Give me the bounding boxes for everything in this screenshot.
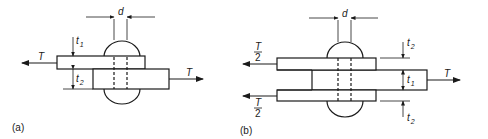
panel-a-lap-joint	[22, 17, 203, 104]
top-cover-plate	[277, 58, 376, 70]
label-load-left-a: T	[38, 51, 45, 62]
label-load-left-bottom-den: 2	[255, 108, 261, 119]
rivet-head-top	[104, 41, 140, 57]
caption-b: (b)	[240, 125, 252, 136]
label-load-right-a: T	[186, 67, 193, 78]
rivet-head-bottom	[327, 101, 363, 117]
bottom-plate	[93, 69, 169, 89]
rivet-head-top	[327, 42, 363, 58]
riveted-joint-diagram: d t1 t2 T T (a)	[0, 0, 488, 139]
label-load-left-top-den: 2	[255, 52, 261, 63]
label-t1-a: t1	[76, 35, 84, 48]
label-load-left-bottom-num: T	[255, 97, 262, 108]
top-plate	[57, 56, 145, 69]
label-t2-bottom-b: t2	[407, 112, 415, 125]
label-d-b: d	[342, 8, 348, 19]
label-t2-top-b: t2	[407, 37, 415, 50]
label-t2-a: t2	[76, 73, 84, 86]
panel-b-butt-joint	[243, 18, 460, 117]
label-load-right-b: T	[444, 68, 451, 79]
bottom-cover-plate	[277, 90, 376, 101]
caption-a: (a)	[12, 122, 24, 133]
rivet-head-bottom	[104, 89, 140, 104]
label-d-a: d	[118, 6, 124, 17]
label-load-left-top-num: T	[255, 41, 262, 52]
